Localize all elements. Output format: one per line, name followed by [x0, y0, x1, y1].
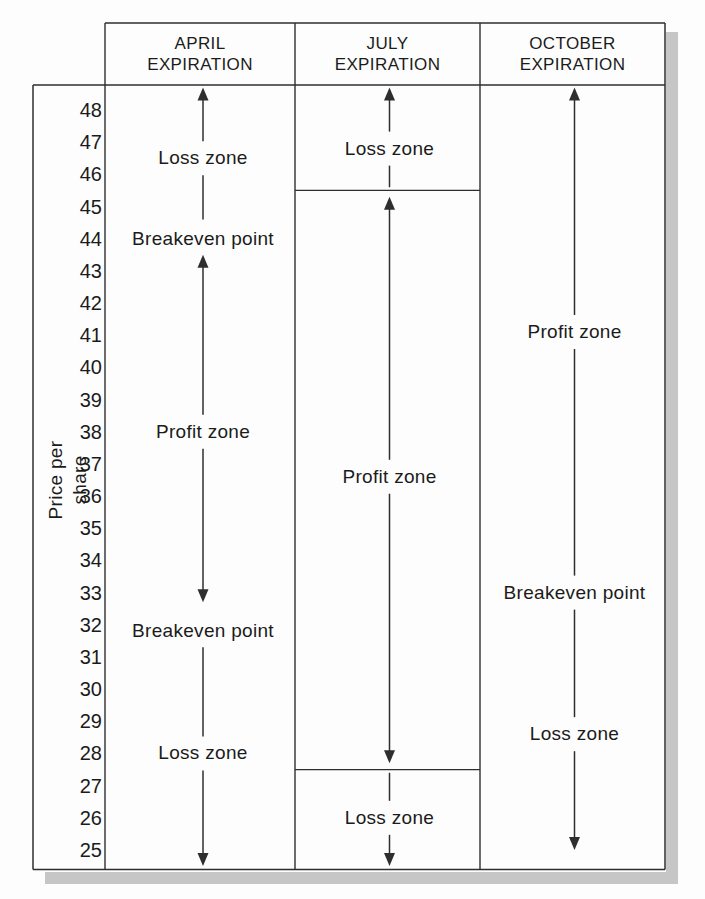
price-tick: 31 [28, 645, 102, 669]
price-tick: 37 [28, 452, 102, 476]
price-tick: 38 [28, 420, 102, 444]
options-expiration-figure: APRIL EXPIRATION JULY EXPIRATION OCTOBER… [0, 0, 705, 899]
april-arrowhead-down [198, 853, 209, 866]
october-arrowhead-up [569, 87, 580, 100]
july-zone-label: Profit zone [342, 466, 436, 488]
price-tick: 42 [28, 291, 102, 315]
price-tick: 47 [28, 130, 102, 154]
price-tick: 46 [28, 162, 102, 186]
column-header-october: OCTOBER EXPIRATION [481, 24, 664, 84]
price-tick: 33 [28, 581, 102, 605]
price-tick: 34 [28, 548, 102, 572]
price-tick: 29 [28, 709, 102, 733]
column-header-april-line1: APRIL [174, 33, 225, 54]
price-tick: 43 [28, 259, 102, 283]
price-tick: 40 [28, 355, 102, 379]
price-tick: 26 [28, 806, 102, 830]
price-tick: 30 [28, 677, 102, 701]
april-zone-label: Loss zone [158, 742, 247, 764]
october-zone-label: Profit zone [527, 321, 621, 343]
column-header-july-line1: JULY [367, 33, 409, 54]
april-zone-label: Breakeven point [132, 228, 274, 250]
price-tick: 27 [28, 774, 102, 798]
october-arrowhead-down [569, 837, 580, 850]
april-arrowhead-up [198, 255, 209, 268]
july-arrowhead-down [384, 853, 395, 866]
column-header-april: APRIL EXPIRATION [106, 24, 294, 84]
price-tick: 41 [28, 323, 102, 347]
october-zone-label: Loss zone [530, 723, 619, 745]
april-zone-label: Profit zone [156, 421, 250, 443]
price-tick: 32 [28, 613, 102, 637]
column-header-july-line2: EXPIRATION [335, 54, 441, 75]
column-header-july: JULY EXPIRATION [296, 24, 479, 84]
july-zone-label: Loss zone [345, 807, 434, 829]
july-zone-label: Loss zone [345, 138, 434, 160]
price-tick: 25 [28, 838, 102, 862]
price-tick: 39 [28, 388, 102, 412]
price-tick: 48 [28, 98, 102, 122]
column-header-october-line1: OCTOBER [529, 33, 616, 54]
price-tick: 36 [28, 484, 102, 508]
price-tick: 35 [28, 516, 102, 540]
column-header-april-line2: EXPIRATION [147, 54, 253, 75]
july-arrowhead-up [384, 87, 395, 100]
april-zone-label: Breakeven point [132, 620, 274, 642]
october-zone-label: Breakeven point [504, 582, 646, 604]
april-arrowhead-up [198, 87, 209, 100]
zones-diagram-canvas [0, 0, 705, 899]
price-tick: 45 [28, 195, 102, 219]
april-zone-label: Loss zone [158, 147, 247, 169]
price-tick: 28 [28, 741, 102, 765]
july-arrowhead-down [384, 750, 395, 763]
july-arrowhead-up [384, 197, 395, 210]
column-header-october-line2: EXPIRATION [520, 54, 626, 75]
april-arrowhead-down [198, 589, 209, 602]
price-tick: 44 [28, 227, 102, 251]
